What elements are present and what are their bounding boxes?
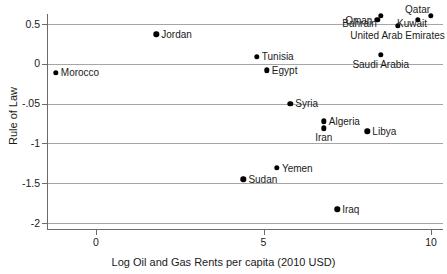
x-axis-title: Log Oil and Gas Rents per capita (2010 U…	[0, 256, 447, 268]
data-label-morocco: Morocco	[61, 68, 99, 78]
y-axis-line	[47, 14, 48, 230]
y-axis-tick-label: -2	[31, 218, 40, 229]
data-label-algeria: Algeria	[329, 117, 360, 127]
data-label-egypt: Egypt	[272, 66, 298, 76]
data-label-qatar: Qatar	[405, 5, 430, 15]
x-axis-tick-mark	[264, 230, 265, 235]
y-axis-tick-mark	[42, 24, 47, 25]
data-label-sudan: Sudan	[248, 175, 277, 185]
x-axis-tick-label: 0	[93, 237, 99, 248]
data-point-tunisia	[254, 54, 259, 59]
data-point-sudan	[241, 177, 246, 182]
y-axis-tick-labels: 0.50-.05-1-1.5-2	[0, 0, 40, 274]
data-point-iraq	[334, 207, 339, 212]
data-label-syria: Syria	[295, 99, 318, 109]
data-label-libya: Libya	[372, 127, 396, 137]
data-point-morocco	[53, 70, 58, 75]
gridline	[47, 183, 443, 184]
data-point-jordan	[154, 32, 159, 37]
y-axis-title: Rule of Law	[7, 46, 19, 186]
data-point-syria	[288, 101, 293, 106]
data-label-tunisia: Tunisia	[262, 52, 294, 62]
data-label-iran: Iran	[315, 133, 332, 143]
x-axis-tick-label: 5	[261, 237, 267, 248]
plot-area: MoroccoJordanSudanTunisiaEgyptYemenSyria…	[47, 14, 443, 223]
y-axis-tick-mark	[42, 143, 47, 144]
x-axis-tick-mark	[96, 230, 97, 235]
gridline	[47, 143, 443, 144]
data-point-algeria	[321, 118, 326, 123]
data-point-iran	[321, 126, 326, 131]
data-point-egypt	[264, 67, 269, 72]
y-axis-tick-mark	[42, 104, 47, 105]
y-axis-tick-label: 0	[34, 58, 40, 69]
x-axis-tick-label: 10	[425, 237, 437, 248]
y-axis-tick-label: 0.5	[25, 19, 40, 30]
scatter-plot-figure: MoroccoJordanSudanTunisiaEgyptYemenSyria…	[0, 0, 447, 274]
y-axis-tick-label: -1	[31, 138, 40, 149]
data-label-iraq: Iraq	[342, 205, 359, 215]
data-label-kuwait: Kuwait	[397, 19, 427, 29]
x-axis-tick-mark	[431, 230, 432, 235]
y-axis-tick-label: -1.5	[22, 178, 40, 189]
data-label-yemen: Yemen	[282, 164, 313, 174]
y-axis-tick-mark	[42, 223, 47, 224]
data-point-kuwait	[428, 13, 433, 18]
data-label-saudi-arabia: Saudi Arabia	[352, 60, 409, 70]
data-point-saudi-arabia	[378, 52, 383, 57]
gridline	[47, 24, 443, 25]
gridline	[47, 104, 443, 105]
data-label-bahrain: Bahrain	[342, 19, 376, 29]
x-axis-line	[47, 229, 443, 230]
y-axis-tick-mark	[42, 64, 47, 65]
y-axis-tick-mark	[42, 183, 47, 184]
data-label-united-arab-emirates: United Arab Emirates	[350, 31, 445, 41]
data-point-bahrain	[378, 13, 383, 18]
gridline	[47, 223, 443, 224]
data-point-libya	[365, 129, 370, 134]
data-label-jordan: Jordan	[161, 30, 192, 40]
data-point-yemen	[274, 165, 279, 170]
y-axis-tick-label: -.05	[22, 98, 40, 109]
